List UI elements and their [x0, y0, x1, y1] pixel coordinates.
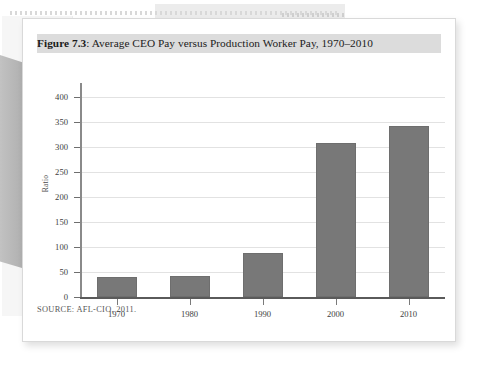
perforated-page-edge-secondary [282, 13, 346, 17]
x-axis-tick [336, 299, 337, 305]
x-axis-tick [409, 299, 410, 305]
y-axis-tick-label: 0 [38, 292, 68, 302]
y-axis-title: Ratio [41, 154, 50, 214]
chart-plot-area: Ratio 0501001502002503003504001970198019… [23, 67, 455, 317]
figure-card: Figure 7.3: Average CEO Pay versus Produ… [22, 18, 456, 342]
source-note: SOURCE: AFL-CIO, 2011. [37, 305, 136, 314]
y-axis-tick-label: 250 [38, 167, 68, 177]
gridline [80, 122, 445, 123]
bar-1970 [97, 277, 137, 297]
gridline [80, 97, 445, 98]
screenshot-root: Figure 7.3: Average CEO Pay versus Produ… [0, 0, 477, 371]
figure-number: Figure 7.3 [37, 37, 86, 49]
x-axis-tick [190, 299, 191, 305]
y-axis-tick-label: 150 [38, 217, 68, 227]
x-axis-tick-label: 1990 [238, 309, 288, 319]
bar-2000 [316, 143, 356, 298]
x-axis-tick-label: 1980 [165, 309, 215, 319]
bar-2010 [389, 126, 429, 297]
x-axis-tick [263, 299, 264, 305]
bar-1990 [243, 253, 283, 297]
y-axis-tick-label: 50 [38, 267, 68, 277]
figure-caption: Figure 7.3: Average CEO Pay versus Produ… [37, 34, 441, 53]
y-axis-tick-label: 400 [38, 92, 68, 102]
x-axis-tick-label: 2000 [311, 309, 361, 319]
y-axis-tick-label: 200 [38, 192, 68, 202]
bar-1980 [170, 276, 210, 297]
y-axis-tick-label: 300 [38, 142, 68, 152]
y-axis-line [80, 83, 82, 297]
y-axis-tick-label: 100 [38, 242, 68, 252]
x-axis-tick-label: 2010 [384, 309, 434, 319]
figure-card-inner: Figure 7.3: Average CEO Pay versus Produ… [23, 19, 455, 341]
y-axis-tick-label: 350 [38, 117, 68, 127]
figure-caption-text: Average CEO Pay versus Production Worker… [89, 37, 372, 49]
